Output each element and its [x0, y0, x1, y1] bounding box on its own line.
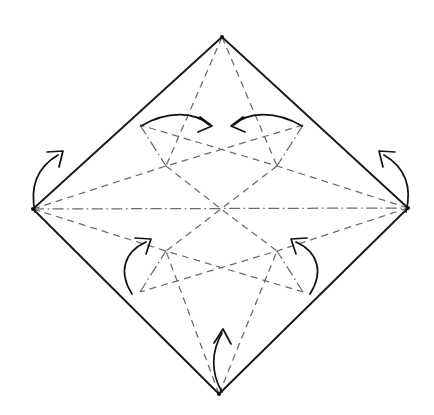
- bottom-vertex-dot: [217, 392, 221, 396]
- crease-pattern-canvas: [0, 0, 434, 415]
- crease-pattern-figure: [0, 0, 434, 415]
- left-vertex-dot: [31, 207, 35, 211]
- right-vertex-dot: [406, 206, 410, 210]
- top-vertex-dot: [220, 35, 224, 39]
